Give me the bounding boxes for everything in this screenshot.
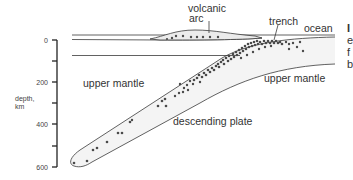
svg-text:I: I	[347, 22, 350, 34]
svg-text:f: f	[347, 46, 351, 58]
trench-leader	[274, 25, 278, 40]
tick-label-0: 0	[44, 37, 48, 44]
descending-plate-shape	[71, 37, 335, 167]
label-descending-plate: descending plate	[173, 115, 253, 127]
label-arc: arc	[189, 12, 204, 24]
label-upper-mantle-right: upper mantle	[264, 72, 325, 84]
axis-label-km: km	[15, 103, 25, 110]
cropped-caption-text: I e f b	[347, 22, 353, 70]
label-trench: trench	[269, 15, 298, 27]
tick-label-400: 400	[36, 121, 48, 128]
tick-label-600: 600	[36, 164, 48, 171]
label-ocean: ocean	[304, 22, 333, 34]
subduction-diagram: 0 200 400 600 depth, km	[0, 0, 353, 180]
svg-text:b: b	[347, 58, 353, 70]
svg-text:e: e	[347, 34, 353, 46]
tick-label-200: 200	[36, 79, 48, 86]
label-upper-mantle-left: upper mantle	[83, 77, 144, 89]
axis-label-depth: depth,	[15, 95, 35, 103]
depth-axis: 0 200 400 600 depth, km	[15, 37, 57, 171]
